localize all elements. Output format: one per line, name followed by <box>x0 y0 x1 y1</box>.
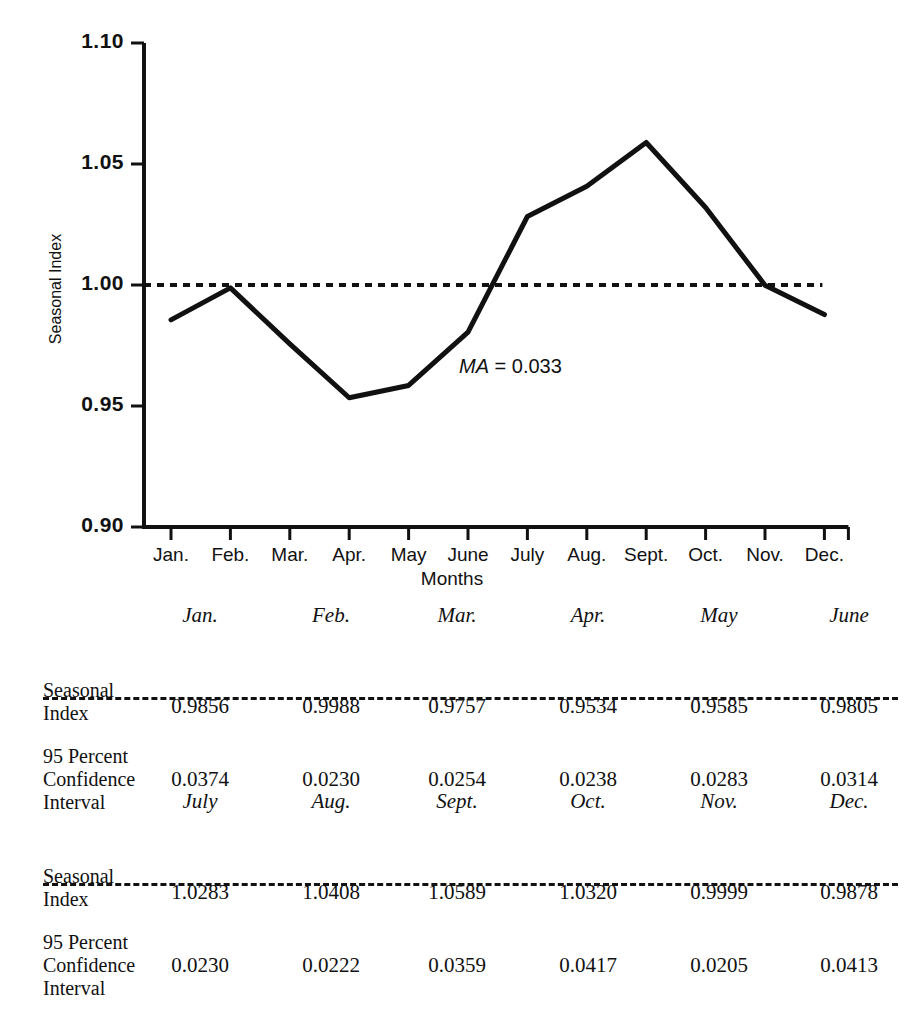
row-label: 95 Percent Confidence Interval <box>43 931 135 1000</box>
column-header-july: July <box>140 789 260 814</box>
data-table-2: JulyAug.Sept.Oct.Nov.Dec.Seasonal Index1… <box>0 789 904 825</box>
column-header-oct: Oct. <box>528 789 648 814</box>
column-header-nov: Nov. <box>659 789 779 814</box>
ma-annotation: MA = 0.033 <box>459 355 562 378</box>
column-header-apr: Apr. <box>528 603 648 628</box>
column-header-feb: Feb. <box>271 603 391 628</box>
table-cell: 0.0359 <box>397 953 517 978</box>
table-separator-dashed <box>43 697 898 700</box>
row-label: Seasonal Index <box>43 679 114 725</box>
y-tick-label-2: 1.00 <box>32 271 124 295</box>
table-cell: 0.0230 <box>140 953 260 978</box>
table-header-row: Jan.Feb.Mar.Apr.MayJune <box>0 603 904 639</box>
column-header-june: June <box>789 603 904 628</box>
seasonal-index-line-chart <box>0 0 904 560</box>
ma-symbol: MA <box>459 355 489 377</box>
table-cell: 0.0205 <box>659 953 779 978</box>
table-cell: 0.0413 <box>789 953 904 978</box>
y-tick-label-3: 0.95 <box>32 392 124 416</box>
table-cell: 0.0417 <box>528 953 648 978</box>
x-axis-title: Months <box>0 568 904 590</box>
table-separator-dashed <box>43 883 898 886</box>
column-header-sept: Sept. <box>397 789 517 814</box>
table-cell: 0.0222 <box>271 953 391 978</box>
y-tick-label-0: 1.10 <box>32 29 124 53</box>
x-tick-label-dec: Dec. <box>789 544 859 566</box>
y-tick-label-1: 1.05 <box>32 150 124 174</box>
ma-value: = 0.033 <box>495 355 562 377</box>
data-table-1: Jan.Feb.Mar.Apr.MayJuneSeasonal Index0.9… <box>0 603 904 639</box>
column-header-may: May <box>659 603 779 628</box>
column-header-jan: Jan. <box>140 603 260 628</box>
seasonal-index-figure: Seasonal Index Months MA = 0.033 1.101.0… <box>0 0 904 1011</box>
table-header-row: JulyAug.Sept.Oct.Nov.Dec. <box>0 789 904 825</box>
column-header-mar: Mar. <box>397 603 517 628</box>
column-header-aug: Aug. <box>271 789 391 814</box>
column-header-dec: Dec. <box>789 789 904 814</box>
row-label: Seasonal Index <box>43 865 114 911</box>
y-tick-label-4: 0.90 <box>32 513 124 537</box>
